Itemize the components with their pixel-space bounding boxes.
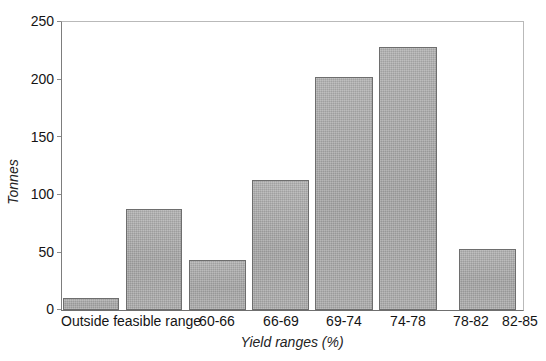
x-tick-label-66-69: 66-69 [250, 313, 312, 329]
bar-66-69 [252, 180, 309, 310]
bar-69-74 [315, 77, 373, 310]
x-tick-label-82-85: 82-85 [489, 313, 546, 329]
x-axis-title: Yield ranges (%) [61, 334, 523, 350]
bar-chart-figure: Tonnes 250 200 150 100 50 0 Outside feas… [0, 0, 546, 361]
bar-82-85 [459, 249, 516, 310]
y-tick-label-250: 250 [14, 14, 54, 28]
bar-74-78 [379, 47, 437, 310]
y-tick-label-150: 150 [14, 130, 54, 144]
bar-outside-feasible-range-a [63, 298, 119, 310]
y-tick-label-0: 0 [14, 302, 54, 316]
bar-series [62, 22, 523, 310]
x-tick-label-69-74: 69-74 [313, 313, 375, 329]
bar-outside-feasible-range-b [126, 209, 182, 310]
plot-area [61, 21, 524, 311]
bar-60-66 [189, 260, 246, 310]
y-axis-title: Tonnes [4, 128, 26, 238]
x-tick-label-74-78: 74-78 [377, 313, 439, 329]
y-tick-label-100: 100 [14, 187, 54, 201]
y-tick-label-200: 200 [14, 72, 54, 86]
y-tick-label-50: 50 [14, 245, 54, 259]
x-tick-label-60-66: 60-66 [186, 313, 248, 329]
x-tick-label-outside-feasible-range: Outside feasible range [61, 313, 181, 329]
